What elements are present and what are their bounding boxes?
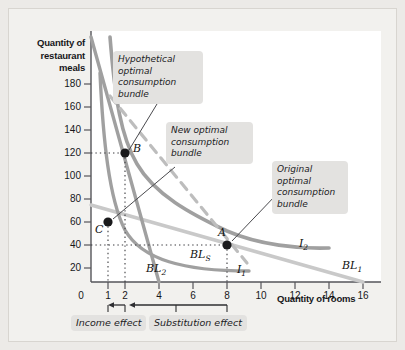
curve-label-i1: I1 [237, 263, 246, 278]
callout-original-optimal-line-4: bundle [277, 199, 343, 211]
callout-original-optimal-line-2: optimal [277, 176, 343, 188]
curve-label-i1-sub: 1 [241, 269, 246, 278]
curve-label-bl2: BL2 [146, 262, 166, 277]
callout-original-optimal-line-3: consumption [277, 187, 343, 199]
curve-label-bl1: BL1 [342, 259, 362, 274]
x-tick-marks [108, 282, 363, 289]
leader-original-optimal [232, 195, 276, 241]
callout-hypothetical-line-3: consumption [118, 77, 198, 89]
curve-label-bl1-sub: 1 [357, 265, 362, 274]
callout-hypothetical-line-4: bundle [118, 89, 198, 101]
point-label-a: A [218, 226, 226, 239]
figure-panel: Quantity of restaurant meals Quantity of… [8, 8, 397, 342]
callout-new-optimal-bundle: New optimal consumption bundle [166, 122, 253, 164]
curve-label-bl1-base: BL [342, 259, 357, 272]
curve-label-bls: BLS [190, 248, 211, 263]
point-label-c: C [95, 223, 103, 236]
curve-label-bl2-base: BL [146, 262, 161, 275]
point-c-dot [103, 217, 112, 226]
callout-hypothetical-optimal-bundle: Hypothetical optimal consumption bundle [113, 51, 203, 104]
income-effect-arrow [108, 302, 125, 312]
callout-new-optimal-line-1: New optimal [171, 125, 248, 137]
curve-label-bl2-sub: 2 [161, 268, 166, 277]
callout-hypothetical-line-1: Hypothetical [118, 54, 198, 66]
callout-original-optimal-line-1: Original [277, 164, 343, 176]
income-effect-label: Income effect [71, 315, 146, 331]
curve-label-bls-sub: S [205, 254, 210, 263]
point-a-dot [222, 240, 231, 249]
curve-label-i2-sub: 2 [303, 243, 308, 252]
callout-hypothetical-line-2: optimal [118, 66, 198, 78]
callout-new-optimal-line-2: consumption [171, 137, 248, 149]
curve-label-i2: I2 [299, 237, 308, 252]
point-label-b: B [133, 142, 141, 155]
point-b-dot [120, 148, 129, 157]
substitution-effect-arrow [129, 302, 227, 312]
callout-new-optimal-line-3: bundle [171, 148, 248, 160]
substitution-effect-label: Substitution effect [149, 315, 247, 331]
y-tick-marks [84, 84, 91, 268]
callout-original-optimal-bundle: Original optimal consumption bundle [272, 161, 348, 214]
curve-label-bls-base: BL [190, 248, 205, 261]
